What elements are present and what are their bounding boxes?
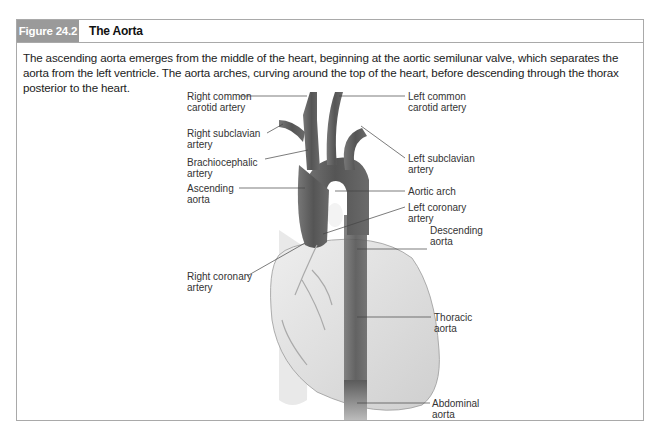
label-brachiocephalic-artery: Brachiocephalic artery — [187, 157, 258, 179]
label-ascending-aorta: Ascending aorta — [187, 183, 234, 205]
label-right-subclavian-artery: Right subclavian artery — [187, 128, 260, 150]
label-descending-aorta: Descending aorta — [430, 225, 483, 247]
label-right-coronary-artery: Right coronary artery — [187, 271, 252, 293]
aorta-illustration — [17, 20, 645, 422]
left-common-carotid-shape — [327, 92, 343, 165]
label-left-subclavian-artery: Left subclavian artery — [408, 153, 475, 175]
label-aortic-arch: Aortic arch — [408, 186, 456, 197]
label-abdominal-aorta: Abdominal aorta — [432, 398, 479, 420]
right-subclavian-shape — [279, 120, 305, 142]
label-thoracic-aorta: Thoracic aorta — [434, 312, 472, 334]
label-right-common-carotid-artery: Right common carotid artery — [187, 91, 251, 113]
label-left-coronary-artery: Left coronary artery — [408, 202, 466, 224]
brachiocephalic-shape — [303, 92, 320, 170]
figure-panel: Figure 24.2 The Aorta The ascending aort… — [16, 19, 644, 421]
label-left-common-carotid-artery: Left common carotid artery — [408, 91, 466, 113]
